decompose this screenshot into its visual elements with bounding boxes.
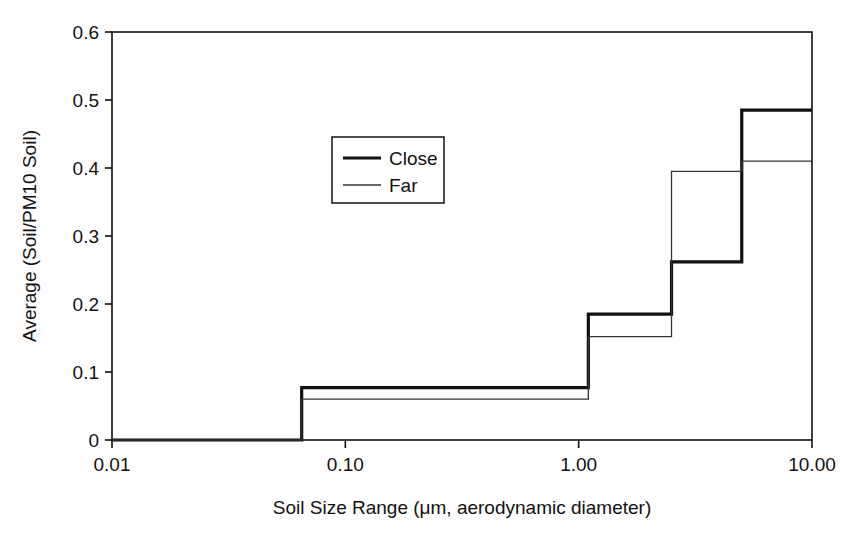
- x-axis-title: Soil Size Range (μm, aerodynamic diamete…: [273, 497, 651, 518]
- x-tick-label-0: 0.01: [94, 454, 131, 475]
- y-tick-label-4: 0.4: [73, 158, 100, 179]
- chart-legend: Close Far: [332, 137, 444, 203]
- x-tick-label-1: 0.10: [327, 454, 364, 475]
- step-chart-svg: 00.10.20.30.40.50.6 0.010.101.0010.00 Cl…: [0, 0, 867, 535]
- chart-figure: 00.10.20.30.40.50.6 0.010.101.0010.00 Cl…: [0, 0, 867, 535]
- y-tick-label-2: 0.2: [73, 294, 99, 315]
- legend-box: [332, 137, 444, 203]
- x-tick-label-3: 10.00: [788, 454, 836, 475]
- y-tick-label-0: 0: [88, 430, 99, 451]
- y-tick-label-1: 0.1: [73, 362, 99, 383]
- y-axis-title: Average (Soil/PM10 Soil): [19, 130, 40, 342]
- x-tick-label-2: 1.00: [560, 454, 597, 475]
- y-tick-label-3: 0.3: [73, 226, 99, 247]
- y-tick-label-6: 0.6: [73, 22, 99, 43]
- legend-label-far: Far: [389, 175, 418, 196]
- legend-label-close: Close: [389, 148, 438, 169]
- y-tick-label-5: 0.5: [73, 90, 99, 111]
